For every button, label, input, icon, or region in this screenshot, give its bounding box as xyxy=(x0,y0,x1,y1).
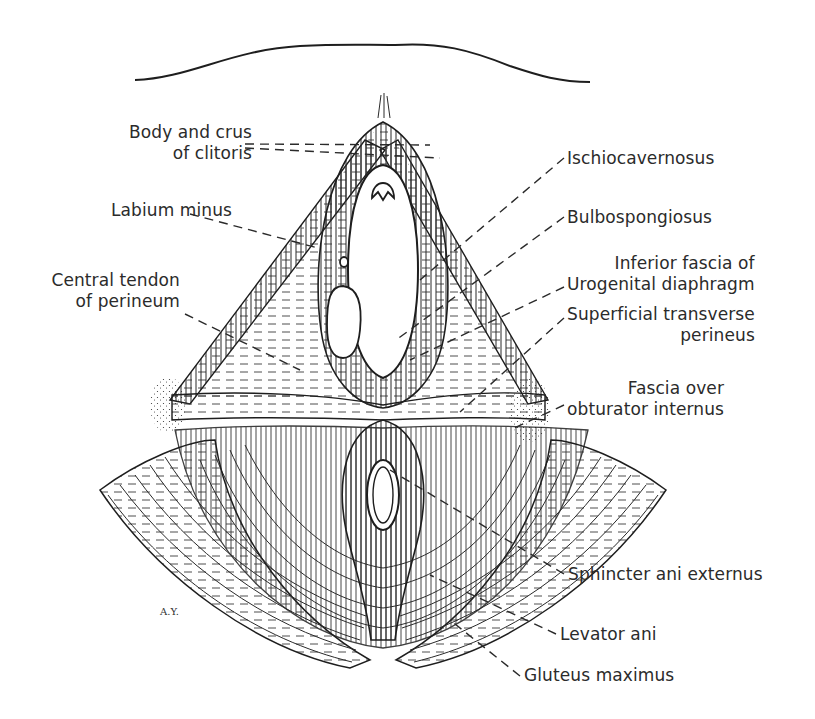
label-line: Superficial transverse xyxy=(567,304,755,325)
label-line: Body and crus xyxy=(12,122,252,143)
label-body-crus-clitoris: Body and crusof clitoris xyxy=(12,122,252,164)
anatomy-drawing xyxy=(0,0,815,719)
label-inferior-fascia: Inferior fascia ofUrogenital diaphragm xyxy=(567,253,755,295)
label-gluteus-maximus: Gluteus maximus xyxy=(524,665,674,686)
label-line: Levator ani xyxy=(560,624,657,645)
label-bulbospongiosus: Bulbospongiosus xyxy=(567,207,712,228)
label-line: Inferior fascia of xyxy=(567,253,755,274)
label-superficial-transverse: Superficial transverseperineus xyxy=(567,304,755,346)
label-line: Urogenital diaphragm xyxy=(567,274,755,295)
urethral-opening xyxy=(340,257,348,267)
label-levator-ani: Levator ani xyxy=(560,624,657,645)
label-line: perineus xyxy=(567,325,755,346)
label-line: Bulbospongiosus xyxy=(567,207,712,228)
artist-signature: A.Y. xyxy=(160,606,179,617)
label-line: Ischiocavernosus xyxy=(567,148,714,169)
label-ischiocavernosus: Ischiocavernosus xyxy=(567,148,714,169)
label-line: of perineum xyxy=(12,291,180,312)
leader-body-crus-clitoris xyxy=(245,144,430,145)
label-line: obturator internus xyxy=(567,399,724,420)
perineum-illustration: Body and crusof clitorisLabium minusCent… xyxy=(0,0,815,719)
label-line: Gluteus maximus xyxy=(524,665,674,686)
label-central-tendon: Central tendonof perineum xyxy=(12,270,180,312)
label-line: Fascia over xyxy=(567,378,724,399)
fascia-obturator-left xyxy=(150,377,186,433)
label-line: of clitoris xyxy=(12,143,252,164)
label-sphincter-ani: Sphincter ani externus xyxy=(568,564,763,585)
label-line: Labium minus xyxy=(12,200,232,221)
vaginal-opening xyxy=(327,286,361,358)
label-line: Sphincter ani externus xyxy=(568,564,763,585)
skin-contour xyxy=(135,44,590,82)
label-labium-minus: Labium minus xyxy=(12,200,232,221)
label-line: Central tendon xyxy=(12,270,180,291)
label-fascia-obturator: Fascia overobturator internus xyxy=(567,378,724,420)
clitoris-tuft xyxy=(378,93,390,118)
